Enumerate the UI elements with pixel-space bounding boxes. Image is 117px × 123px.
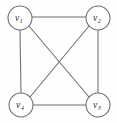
graph-vertex-v1: v1 xyxy=(8,6,32,30)
graph-edge-v1-v4 xyxy=(20,30,21,93)
vertex-label-subscript-v1: 1 xyxy=(20,17,23,24)
graph-vertex-v2: v2 xyxy=(86,6,110,30)
vertex-label-subscript-v3: 3 xyxy=(97,104,101,111)
graph-vertex-v4: v4 xyxy=(9,93,33,117)
graph-figure: v1v2v3v4 xyxy=(0,0,117,123)
edge-layer xyxy=(20,17,98,105)
graph-canvas: v1v2v3v4 xyxy=(0,0,117,123)
graph-vertex-v3: v3 xyxy=(86,93,110,117)
